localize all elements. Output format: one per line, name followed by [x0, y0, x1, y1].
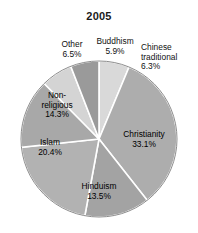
- pie-label-christianity-value: 33.1%: [111, 140, 177, 150]
- pie-label-hinduism: Hinduism 13.5%: [68, 182, 130, 201]
- pie-label-other-value: 6.5%: [52, 50, 92, 60]
- pie-label-hinduism-value: 13.5%: [68, 192, 130, 202]
- pie-label-islam-value: 20.4%: [23, 148, 77, 158]
- pie-label-non-religious-value: 14.3%: [30, 110, 84, 120]
- pie-chart-figure: 2005 Other 6.5% Buddhism 5.9% Chinese tr…: [0, 0, 198, 233]
- pie-label-islam: Islam 20.4%: [23, 138, 77, 157]
- pie-label-buddhism-value: 5.9%: [89, 47, 141, 57]
- pie-label-chinese-traditional: Chinese traditional 6.3%: [141, 43, 197, 72]
- pie-label-non-religious: Non- religious 14.3%: [30, 91, 84, 120]
- pie-label-christianity: Christianity 33.1%: [111, 130, 177, 149]
- pie-label-other: Other 6.5%: [52, 40, 92, 59]
- pie-label-chinese-traditional-value: 6.3%: [141, 62, 197, 72]
- pie-label-buddhism: Buddhism 5.9%: [89, 37, 141, 56]
